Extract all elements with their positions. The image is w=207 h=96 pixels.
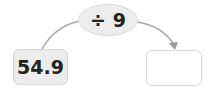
arrowhead-icon bbox=[169, 42, 178, 50]
input-box: 54.9 bbox=[13, 49, 68, 85]
operation-label: ÷ 9 bbox=[90, 9, 126, 31]
answer-box[interactable] bbox=[146, 50, 202, 86]
outgoing-connector bbox=[137, 22, 174, 45]
incoming-connector bbox=[42, 21, 80, 49]
operation-oval: ÷ 9 bbox=[78, 4, 138, 36]
input-value: 54.9 bbox=[17, 56, 64, 78]
